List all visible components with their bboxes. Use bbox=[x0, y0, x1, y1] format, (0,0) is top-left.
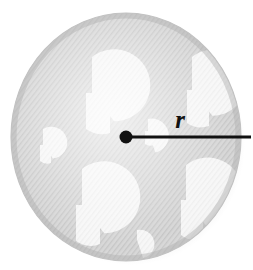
radius-label: r bbox=[175, 106, 185, 133]
diagram-canvas: r bbox=[0, 0, 253, 270]
circle-radius-diagram: r bbox=[0, 0, 253, 270]
center-dot bbox=[120, 131, 133, 144]
